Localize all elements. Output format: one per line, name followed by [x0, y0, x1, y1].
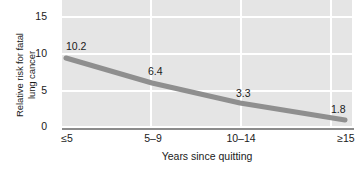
relative-risk-line-chart: Relative risk for fatal lung cancer 15 1…: [0, 0, 359, 173]
gridline-vertical-1: [150, 0, 152, 128]
data-label-point-4: 1.8: [331, 104, 346, 115]
data-label-point-2: 6.4: [148, 66, 163, 77]
x-axis-title: Years since quitting: [62, 150, 352, 162]
gridline-horizontal-15: [62, 16, 352, 18]
plot-area: [62, 0, 352, 128]
y-tick-label-5: 5: [7, 85, 47, 96]
x-axis-line: [62, 128, 354, 130]
x-tick-label-2: 5–9: [118, 132, 188, 144]
data-label-point-1: 10.2: [66, 41, 86, 52]
x-tick-label-4: ≥15: [311, 132, 359, 144]
gridline-horizontal-5: [62, 90, 352, 92]
y-tick-label-0: 0: [7, 121, 47, 132]
gridline-horizontal-10: [62, 53, 352, 55]
x-tick-label-3: 10–14: [206, 132, 276, 144]
y-axis-title: Relative risk for fatal lung cancer: [11, 15, 41, 135]
data-label-point-3: 3.3: [236, 88, 251, 99]
y-tick-label-10: 10: [7, 48, 47, 59]
x-tick-label-1: ≤5: [32, 132, 102, 144]
y-tick-label-15: 15: [7, 11, 47, 22]
gridline-vertical-2: [240, 0, 242, 128]
y-axis-title-line-1: Relative risk for fatal: [14, 33, 26, 117]
